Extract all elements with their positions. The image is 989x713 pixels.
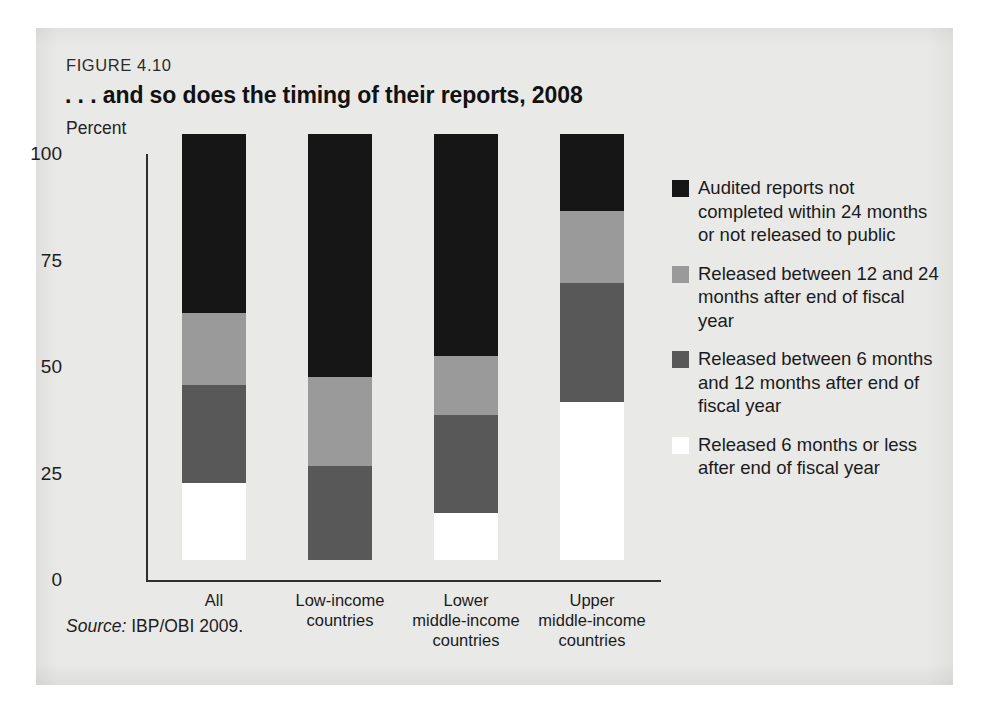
bar-segment[interactable] xyxy=(182,313,246,385)
bar-segment[interactable] xyxy=(434,513,498,560)
y-axis-line xyxy=(146,154,148,582)
bar-segment[interactable] xyxy=(560,402,624,560)
plot-area: 0255075100 AllLow-incomecountriesLowermi… xyxy=(66,146,656,566)
legend-swatch-icon xyxy=(672,437,689,454)
x-axis-tick-label-line: All xyxy=(148,590,280,610)
chart-legend: Audited reports not completed within 24 … xyxy=(672,176,942,495)
x-axis-tick-label: All xyxy=(148,590,280,610)
bar-segment[interactable] xyxy=(182,483,246,560)
x-axis-tick-label-line: middle-income xyxy=(526,610,658,630)
y-axis-tick-label: 75 xyxy=(2,250,62,272)
bar-segment[interactable] xyxy=(560,134,624,211)
legend-label: Released between 12 and 24 months after … xyxy=(698,262,942,333)
bar-segment[interactable] xyxy=(434,134,498,356)
x-axis-line xyxy=(146,580,661,582)
y-axis-tick-label: 50 xyxy=(2,356,62,378)
x-axis-tick-label: Lowermiddle-incomecountries xyxy=(400,590,532,650)
x-axis-tick-label-line: countries xyxy=(274,610,406,630)
bar-segment[interactable] xyxy=(308,466,372,560)
legend-label: Released 6 months or less after end of f… xyxy=(698,433,942,480)
bar-column[interactable] xyxy=(308,132,372,568)
x-axis-tick-label-line: Low-income xyxy=(274,590,406,610)
legend-item[interactable]: Released 6 months or less after end of f… xyxy=(672,433,942,480)
x-axis-tick-label-line: middle-income xyxy=(400,610,532,630)
source-text: IBP/OBI 2009. xyxy=(131,616,243,636)
x-axis-tick-label-line: Lower xyxy=(400,590,532,610)
legend-swatch-icon xyxy=(672,180,689,197)
legend-swatch-icon xyxy=(672,266,689,283)
page-title: . . . and so does the timing of their re… xyxy=(65,82,583,109)
legend-item[interactable]: Audited reports not completed within 24 … xyxy=(672,176,942,247)
bar-segment[interactable] xyxy=(434,356,498,416)
legend-label: Audited reports not completed within 24 … xyxy=(698,176,942,247)
y-axis-unit-label: Percent xyxy=(66,118,126,139)
x-axis-tick-label-line: Upper xyxy=(526,590,658,610)
legend-item[interactable]: Released between 12 and 24 months after … xyxy=(672,262,942,333)
bar-column[interactable] xyxy=(560,132,624,568)
x-axis-tick-label: Uppermiddle-incomecountries xyxy=(526,590,658,650)
y-axis-tick-label: 100 xyxy=(2,143,62,165)
bar-segment[interactable] xyxy=(560,283,624,402)
y-axis-tick-label: 0 xyxy=(2,569,62,591)
bar-stack xyxy=(560,134,624,560)
bar-segment[interactable] xyxy=(560,211,624,283)
bar-column[interactable] xyxy=(182,132,246,568)
source-note: Source: IBP/OBI 2009. xyxy=(66,616,243,637)
bar-segment[interactable] xyxy=(434,415,498,513)
bar-segment[interactable] xyxy=(308,377,372,466)
bar-stack xyxy=(308,134,372,560)
figure-number-label: FIGURE 4.10 xyxy=(66,56,172,75)
bar-column[interactable] xyxy=(434,132,498,568)
bar-segment[interactable] xyxy=(182,134,246,313)
figure-panel: FIGURE 4.10 . . . and so does the timing… xyxy=(36,28,953,685)
y-axis-tick-label: 25 xyxy=(2,463,62,485)
legend-swatch-icon xyxy=(672,351,689,368)
legend-label: Released between 6 months and 12 months … xyxy=(698,347,942,418)
bar-stack xyxy=(182,134,246,560)
x-axis-tick-label-line: countries xyxy=(526,630,658,650)
source-label: Source: xyxy=(66,616,126,636)
bar-stack xyxy=(434,134,498,560)
bar-segment[interactable] xyxy=(182,385,246,483)
legend-item[interactable]: Released between 6 months and 12 months … xyxy=(672,347,942,418)
x-axis-tick-label-line: countries xyxy=(400,630,532,650)
x-axis-tick-label: Low-incomecountries xyxy=(274,590,406,630)
bar-segment[interactable] xyxy=(308,134,372,377)
